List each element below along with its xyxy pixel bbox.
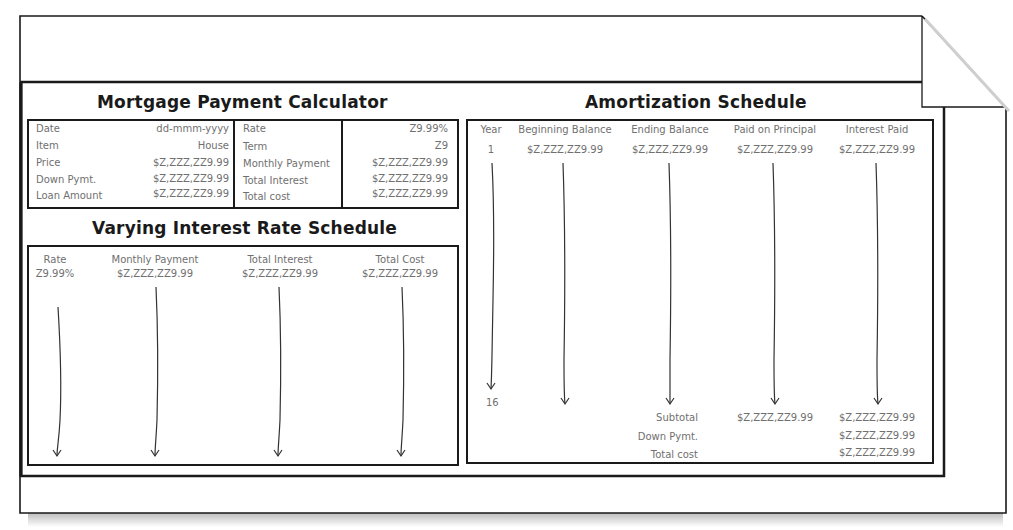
down-arrow-icon xyxy=(563,163,565,404)
down-arrow-icon xyxy=(773,163,775,404)
down-arrow-icon xyxy=(669,163,671,404)
amortization-continuation-arrows xyxy=(0,0,1013,530)
down-arrow-icon xyxy=(491,163,494,389)
down-arrow-icon xyxy=(876,163,878,404)
